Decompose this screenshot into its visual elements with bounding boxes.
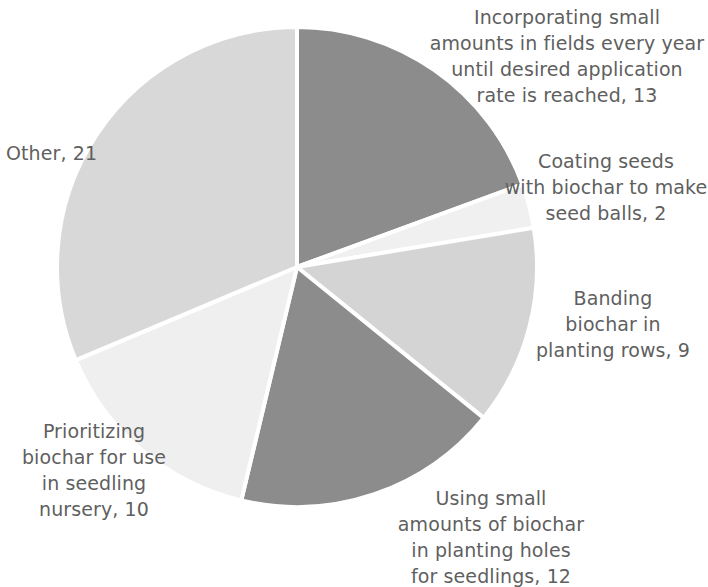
pie-slice-label-banding-biochar: Banding biochar in planting rows, 9 [520,285,706,363]
pie-slice-label-other: Other, 21 [6,140,126,166]
pie-slice-label-incorporating-small-amounts: Incorporating small amounts in fields ev… [428,4,706,108]
pie-slice-label-prioritizing-seedling-nursery: Prioritizing biochar for use in seedling… [8,418,180,522]
pie-chart: Incorporating small amounts in fields ev… [0,0,708,587]
pie-slice-label-coating-seeds: Coating seeds with biochar to make seed … [500,148,708,226]
pie-slice-label-using-small-amounts-planting-holes: Using small amounts of biochar in planti… [374,485,608,587]
